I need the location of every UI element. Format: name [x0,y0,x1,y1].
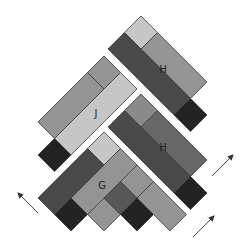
pieces-layer [38,16,207,231]
group-label-j: J [94,108,98,119]
arrow-left-up-icon [18,193,38,213]
group-label-g: G [98,180,106,191]
group-label-h-middle: H [159,142,167,153]
diagram-svg: HJHG [0,0,242,246]
arrow-right-up-lower-icon [193,216,214,237]
tiling-diagram: HJHG [0,0,242,246]
arrow-right-up-upper-icon [212,155,233,176]
group-label-h-top: H [159,64,167,75]
